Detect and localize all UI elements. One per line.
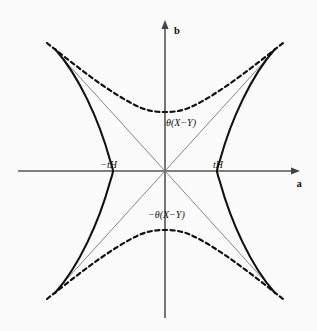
tick-label-left: −tH — [100, 159, 118, 170]
tick-label-right: tH — [213, 159, 224, 170]
hyperbola-figure: b a −tH tH θ(X−Y) −θ(X−Y) — [0, 0, 317, 331]
vertical-axis-label: b — [174, 25, 180, 36]
upper-curve-label: θ(X−Y) — [166, 117, 197, 129]
horizontal-axis-arrow-icon — [291, 167, 300, 174]
vertical-axis-arrow-icon — [161, 20, 168, 29]
horizontal-axis-label: a — [296, 178, 302, 189]
lower-curve-label: −θ(X−Y) — [148, 209, 185, 221]
figure-container: b a −tH tH θ(X−Y) −θ(X−Y) — [0, 0, 317, 331]
labels-group: b a −tH tH θ(X−Y) −θ(X−Y) — [100, 25, 302, 221]
